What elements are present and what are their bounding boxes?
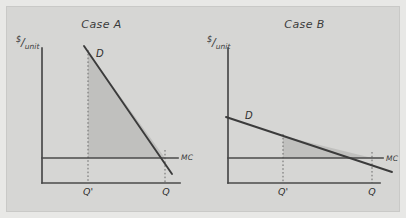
demand-label-case-a: D: [96, 48, 104, 59]
panel-case-a: Case A $/unit D MC Q' Q: [0, 0, 203, 218]
demand-label-case-b: D: [245, 110, 253, 121]
tick-label-q-prime-case-a: Q': [78, 186, 98, 197]
economics-figure: Case A $/unit D MC Q' Q Case B: [0, 0, 406, 218]
mc-label-case-b: MC: [386, 154, 398, 163]
mc-label-case-a: MC: [181, 153, 193, 162]
tick-label-q-case-b: Q: [362, 186, 382, 197]
tick-label-q-prime-case-b: Q': [273, 186, 293, 197]
demand-curve-case-b: [226, 117, 392, 172]
panel-case-b: Case B $/unit D MC Q' Q: [203, 0, 406, 218]
shaded-region-case-b: [283, 136, 372, 158]
tick-label-q-case-a: Q: [156, 186, 176, 197]
